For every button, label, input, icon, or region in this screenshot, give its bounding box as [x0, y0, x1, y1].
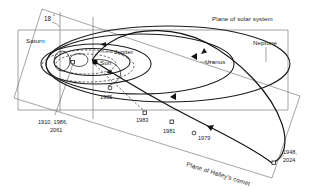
- halley-orbit-diagram: 18 ° Sun: [0, 0, 312, 189]
- uranus-label: Uranus: [205, 58, 225, 65]
- comet-projection-line: [92, 62, 145, 112]
- epoch-1979-label: 1979: [198, 135, 210, 141]
- aphelion-label-line1: 1948,: [283, 149, 297, 155]
- angle-arc: [52, 22, 60, 27]
- marker-1981: [170, 120, 173, 123]
- orbit-arrow-uranus: [201, 48, 207, 54]
- degree-symbol-label: °: [53, 14, 55, 19]
- marker-1979: [192, 131, 196, 135]
- epoch-markers: [71, 61, 276, 165]
- epoch-1985-label: 1985: [100, 94, 112, 100]
- text-labels: Plane of solar system Neptune Uranus Jup…: [26, 15, 297, 187]
- inclination-angle-marker: 18 °: [44, 14, 60, 27]
- angle-value-label: 18: [44, 15, 52, 22]
- epoch-1981-label: 1981: [163, 128, 175, 134]
- plane-of-solar-system-label: Plane of solar system: [212, 15, 273, 22]
- saturn-label: Saturn: [26, 37, 45, 44]
- perihelion-label-line1: 1910, 1986,: [38, 119, 68, 125]
- marker-1948-2024: [272, 161, 276, 165]
- marker-1910-1986-2061: [71, 61, 74, 64]
- comet-orbit-outbound: [92, 60, 272, 163]
- aphelion-label-line2: 2024: [283, 157, 295, 163]
- epoch-1983-label: 1983: [136, 117, 148, 123]
- jupiter-label: Jupiter: [114, 48, 133, 55]
- neptune-label: Neptune: [253, 39, 277, 46]
- plane-of-halleys-comet-label: Plane of Halley's comet: [186, 160, 252, 187]
- marker-1983: [143, 111, 147, 115]
- figure-canvas: 18 ° Sun: [0, 0, 312, 189]
- comet-arrow-mid: [170, 93, 176, 100]
- planet-orbits: [41, 26, 290, 102]
- comet-arrow-return: [191, 53, 197, 60]
- marker-1985: [108, 86, 112, 90]
- perihelion-label-line2: 2061: [50, 127, 62, 133]
- neptune-orbit: [46, 26, 290, 102]
- label-leader-lines: [55, 47, 284, 162]
